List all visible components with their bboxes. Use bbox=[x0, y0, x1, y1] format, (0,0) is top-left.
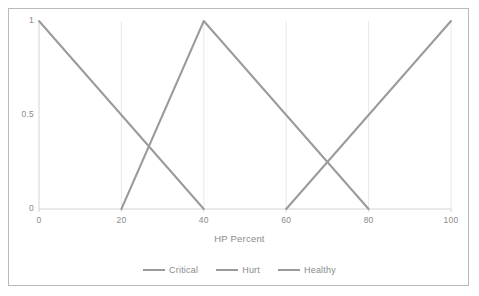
legend-item-hurt[interactable]: Hurt bbox=[216, 265, 260, 275]
legend-item-critical[interactable]: Critical bbox=[143, 265, 198, 275]
x-tick-label: 0 bbox=[19, 215, 59, 225]
plot-area: 00.51 020406080100 HP Percent Critical H… bbox=[9, 9, 470, 287]
legend-label: Critical bbox=[169, 265, 198, 275]
y-tick-label: 0.5 bbox=[11, 109, 34, 119]
chart-frame: 00.51 020406080100 HP Percent Critical H… bbox=[8, 8, 469, 286]
x-tick-label: 80 bbox=[349, 215, 389, 225]
axes bbox=[39, 21, 451, 212]
series-line bbox=[121, 21, 368, 209]
legend-label: Hurt bbox=[242, 265, 260, 275]
x-tick-label: 60 bbox=[266, 215, 306, 225]
legend-label: Healthy bbox=[304, 265, 336, 275]
chart-canvas bbox=[9, 9, 470, 287]
series-lines bbox=[39, 21, 451, 209]
legend-swatch-icon bbox=[216, 269, 238, 271]
x-tick-label: 40 bbox=[184, 215, 224, 225]
x-tick-label: 100 bbox=[431, 215, 471, 225]
x-axis-title: HP Percent bbox=[9, 233, 470, 244]
legend-swatch-icon bbox=[278, 269, 300, 271]
y-tick-label: 1 bbox=[11, 15, 34, 25]
legend-item-healthy[interactable]: Healthy bbox=[278, 265, 336, 275]
chart-legend: Critical Hurt Healthy bbox=[9, 265, 470, 275]
legend-swatch-icon bbox=[143, 269, 165, 271]
x-tick-label: 20 bbox=[101, 215, 141, 225]
y-tick-label: 0 bbox=[11, 203, 34, 213]
